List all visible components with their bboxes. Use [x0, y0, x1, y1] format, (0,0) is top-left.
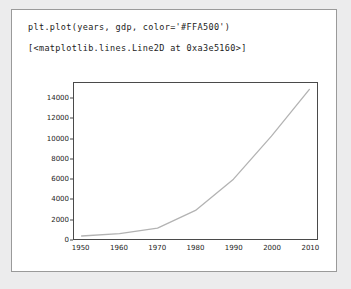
x-tick-label: 1980: [176, 244, 216, 252]
x-tick-label: 1970: [137, 244, 177, 252]
code-output-line: [<matplotlib.lines.Line2D at 0xa3e5160>]: [28, 43, 247, 53]
plot-axes-frame: [73, 82, 318, 240]
x-tick-label: 1950: [61, 244, 101, 252]
y-tick-label: 0: [9, 236, 69, 244]
notebook-cell-card: plt.plot(years, gdp, color='#FFA500') [<…: [11, 9, 337, 272]
matplotlib-figure: 02000400060008000100001200014000 1950196…: [50, 72, 322, 262]
y-tick-label: 6000: [9, 175, 69, 183]
y-tick-label: 10000: [9, 135, 69, 143]
x-tick-label: 1960: [99, 244, 139, 252]
y-tick-label: 14000: [9, 94, 69, 102]
y-tick-label: 12000: [9, 114, 69, 122]
code-input-line[interactable]: plt.plot(years, gdp, color='#FFA500'): [28, 22, 230, 32]
gdp-line-series: [82, 89, 310, 236]
y-tick-label: 8000: [9, 155, 69, 163]
x-tick-label: 2000: [252, 244, 292, 252]
y-tick-label: 4000: [9, 195, 69, 203]
plot-area: [74, 83, 317, 239]
x-tick-label: 2010: [290, 244, 330, 252]
x-tick-label: 1990: [214, 244, 254, 252]
y-tick-label: 2000: [9, 216, 69, 224]
